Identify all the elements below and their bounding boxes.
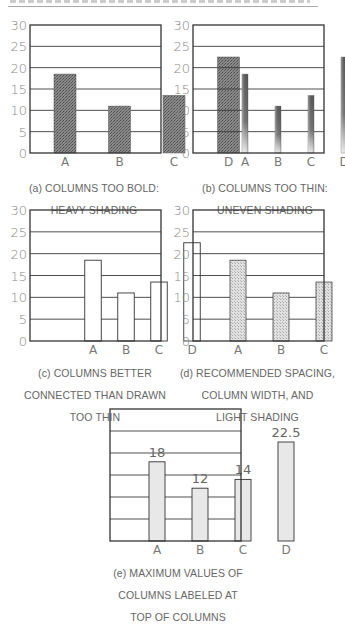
y-tick-label: 10 (10, 290, 27, 305)
y-tick-label: 5 (19, 125, 27, 140)
y-tick-label: 0 (19, 146, 27, 161)
y-tick-label: 5 (182, 125, 190, 140)
bar-a (54, 74, 76, 153)
chart-panel-a: ABCD051015202530 (a) COLUMNS TOO BOLD: H… (0, 0, 168, 195)
y-tick-label: 0 (182, 146, 190, 161)
data-label: 14 (235, 462, 252, 477)
bar-highlight (341, 57, 345, 153)
chart-c: ABCD051015202530 (0, 185, 168, 355)
category-label: A (61, 155, 70, 169)
y-tick-label: 10 (173, 103, 190, 118)
category-label: D (339, 155, 345, 169)
caption-e-line-3: TOP OF COLUMNS (108, 612, 248, 623)
y-tick-label: 15 (173, 269, 190, 284)
chart-d: ABCD051015202530 (163, 185, 335, 355)
caption-e-line-1: (e) MAXIMUM VALUES OF (108, 568, 248, 579)
chart-panel-c: ABCD051015202530 (c) COLUMNS BETTER CONN… (0, 185, 168, 395)
category-label: B (196, 543, 204, 557)
y-tick-label: 5 (182, 312, 190, 327)
category-label: B (115, 155, 123, 169)
y-tick-label: 20 (173, 61, 190, 76)
y-tick-label: 0 (182, 334, 190, 349)
category-label: A (153, 543, 162, 557)
category-label: C (239, 543, 247, 557)
bar-b (273, 293, 289, 341)
y-tick-label: 25 (10, 39, 27, 54)
chart-a: ABCD051015202530 (0, 0, 168, 170)
y-tick-label: 25 (10, 225, 27, 240)
y-tick-label: 20 (10, 61, 27, 76)
y-tick-label: 30 (173, 203, 190, 218)
bar-a (230, 260, 246, 341)
data-label: 22.5 (272, 425, 301, 440)
category-label: A (234, 343, 243, 357)
y-tick-label: 15 (10, 269, 27, 284)
caption-c-line-1: (c) COLUMNS BETTER (20, 368, 170, 379)
category-label: A (241, 155, 250, 169)
y-tick-label: 15 (10, 82, 27, 97)
chart-e: A18B12C14D22.5 (80, 385, 255, 560)
y-tick-label: 20 (10, 247, 27, 262)
category-label: D (281, 543, 290, 557)
category-label: A (89, 343, 98, 357)
caption-e-line-2: COLUMNS LABELED AT (108, 590, 248, 601)
bar-highlight (242, 74, 248, 153)
bar-highlight (275, 106, 281, 153)
bar-b (109, 106, 131, 153)
bar-b (192, 488, 208, 541)
category-label: B (277, 343, 285, 357)
category-label: B (274, 155, 282, 169)
category-label: B (122, 343, 130, 357)
bar-a (85, 260, 102, 341)
y-tick-label: 20 (173, 247, 190, 262)
bar-c (235, 479, 251, 541)
chart-panel-e: A18B12C14D22.5 (e) MAXIMUM VALUES OF COL… (80, 385, 255, 590)
y-tick-label: 25 (173, 225, 190, 240)
chart-panel-d: ABCD051015202530 (d) RECOMMENDED SPACING… (163, 185, 335, 395)
data-label: 12 (192, 471, 209, 486)
chart-b: ABCD051015202530 (163, 0, 335, 170)
y-tick-label: 30 (173, 18, 190, 33)
y-tick-label: 5 (19, 312, 27, 327)
caption-d-line-1: (d) RECOMMENDED SPACING, (175, 368, 340, 379)
y-tick-label: 15 (173, 82, 190, 97)
bar-a (149, 462, 165, 541)
y-tick-label: 30 (10, 203, 27, 218)
category-label: C (320, 343, 328, 357)
data-label: 18 (149, 445, 166, 460)
y-tick-label: 10 (10, 103, 27, 118)
bar-d (278, 442, 294, 541)
category-label: C (307, 155, 315, 169)
caption-e: (e) MAXIMUM VALUES OF COLUMNS LABELED AT… (108, 557, 248, 625)
y-tick-label: 10 (173, 290, 190, 305)
category-label: C (155, 343, 163, 357)
y-tick-label: 30 (10, 18, 27, 33)
y-tick-label: 0 (19, 334, 27, 349)
bar-highlight (308, 95, 314, 153)
chart-panel-b: ABCD051015202530 (b) COLUMNS TOO THIN: U… (163, 0, 335, 195)
bar-b (118, 293, 135, 341)
y-tick-label: 25 (173, 39, 190, 54)
